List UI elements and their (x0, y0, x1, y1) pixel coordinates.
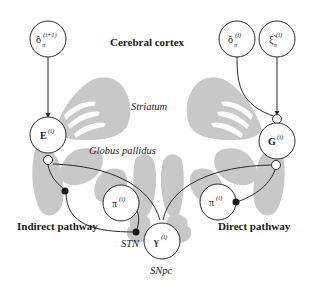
node-pi-left-base: π (112, 198, 117, 209)
node-G-sup: (i) (277, 133, 283, 141)
node-pi-right-sup: (i) (216, 194, 222, 202)
node-direct-dot (233, 199, 240, 206)
node-G: G (i) (259, 123, 295, 159)
node-STN-dot (133, 229, 140, 236)
node-o-next-base: õ (36, 34, 41, 45)
node-E-junction (44, 156, 53, 165)
left-striatum-shape (55, 77, 130, 140)
node-indirect-dot (62, 188, 69, 195)
node-xi: ξ̃ π (i) (259, 21, 295, 57)
node-gamma: γ (i) (144, 223, 180, 259)
node-pi-right-base: π (209, 197, 214, 208)
node-E: E (i) (30, 117, 66, 153)
basal-ganglia-diagram: õ π (i+1) E (i) õ π (i) ξ̃ π (i) G (i) π… (0, 0, 317, 291)
node-o-cur-base: õ (228, 34, 233, 45)
node-pi-left: π (i) (103, 185, 139, 221)
label-stn: STN (121, 238, 140, 249)
label-indirect-pathway: Indirect pathway (17, 220, 98, 232)
node-E-base: E (40, 130, 47, 141)
node-G-junction (272, 161, 281, 170)
node-G-input-junction (273, 115, 282, 124)
label-globus-pallidus: Globus pallidus (89, 145, 156, 156)
node-o-next-sup: (i+1) (43, 31, 57, 39)
node-pi-left-sup: (i) (119, 195, 125, 203)
node-o-cur-sup: (i) (235, 31, 241, 39)
node-E-sup: (i) (48, 127, 54, 135)
right-striatum-shape (187, 77, 262, 140)
label-cerebral-cortex: Cerebral cortex (110, 36, 185, 48)
node-gamma-sup: (i) (161, 233, 167, 241)
node-G-base: G (268, 136, 276, 147)
node-gamma-base: γ (153, 236, 159, 247)
edges (46, 57, 280, 232)
label-direct-pathway: Direct pathway (218, 220, 291, 232)
node-o-cur: õ π (i) (219, 21, 255, 57)
node-xi-sup: (i) (276, 31, 282, 39)
node-pi-right: π (i) (200, 184, 236, 220)
label-striatum: Striatum (131, 101, 168, 112)
label-snpc: SNpc (150, 265, 173, 276)
node-o-next: õ π (i+1) (30, 21, 66, 57)
